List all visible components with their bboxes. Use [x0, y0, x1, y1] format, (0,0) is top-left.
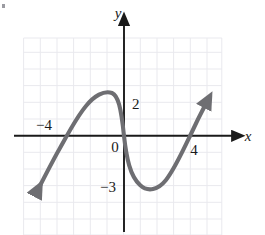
cubic-curve — [37, 92, 207, 192]
y-tick-label-2: 2 — [132, 96, 140, 112]
corner-registration-mark — [2, 4, 5, 8]
graph-figure: y x −4 4 2 −3 0 — [0, 0, 265, 235]
x-axis-label: x — [244, 128, 252, 144]
x-tick-label-neg4: −4 — [36, 117, 52, 133]
x-tick-label-4: 4 — [190, 142, 198, 158]
coordinate-plane-svg: y x −4 4 2 −3 0 — [0, 0, 265, 235]
origin-label: 0 — [111, 139, 119, 155]
y-tick-label-neg3: −3 — [100, 179, 116, 195]
y-axis-label: y — [113, 5, 122, 21]
